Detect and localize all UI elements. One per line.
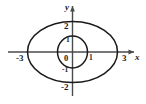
x-axis-arrowhead bbox=[129, 50, 135, 55]
math-figure: y x 2 1 0 -1 -2 -3 1 3 bbox=[0, 0, 146, 104]
tick-label-y-1: 1 bbox=[66, 36, 70, 44]
tick-label-x-3: 3 bbox=[122, 54, 127, 63]
y-axis-arrowhead bbox=[70, 6, 75, 12]
coordinate-plane-graphic bbox=[0, 0, 146, 104]
origin-label: 0 bbox=[64, 54, 68, 63]
tick-label-x-neg-3: -3 bbox=[16, 54, 24, 63]
y-axis-label: y bbox=[65, 3, 69, 12]
tick-label-y-neg-1: -1 bbox=[62, 66, 68, 74]
x-axis-label: x bbox=[135, 53, 140, 62]
tick-label-x-1: 1 bbox=[89, 54, 93, 62]
tick-label-y-neg-2: -2 bbox=[61, 83, 69, 92]
tick-label-y-2: 2 bbox=[64, 22, 69, 31]
